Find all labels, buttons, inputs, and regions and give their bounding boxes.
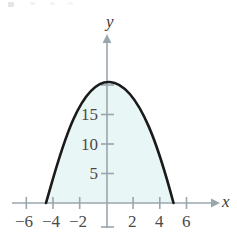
x-tick-label-neg6: −6 [15, 213, 33, 230]
y-axis-label: y [106, 13, 114, 30]
x-tick-label-2: 2 [128, 213, 137, 230]
figure-panel: y x −6 −4 −2 2 4 6 15 10 5 [0, 0, 237, 239]
x-axis-label: x [222, 193, 230, 210]
x-axis-arrow-icon [211, 199, 220, 208]
parabola-plot [0, 0, 237, 239]
y-axis-arrow-icon [103, 34, 112, 43]
x-tick-label-4: 4 [155, 213, 164, 230]
x-tick-label-6: 6 [182, 213, 191, 230]
x-tick-label-neg2: −2 [69, 213, 87, 230]
x-tick-label-neg4: −4 [42, 213, 60, 230]
y-tick-label-15: 15 [79, 106, 98, 123]
y-tick-label-5: 5 [79, 165, 98, 182]
y-tick-label-10: 10 [79, 136, 98, 153]
